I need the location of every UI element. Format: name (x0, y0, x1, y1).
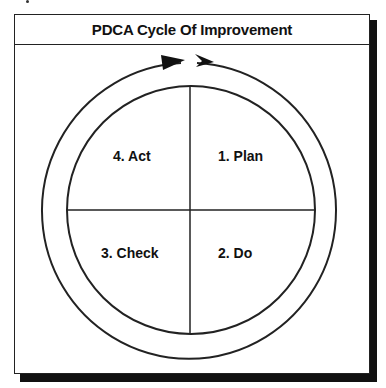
quadrant-check: 3. Check (101, 245, 159, 261)
arrowhead-filled-icon (161, 55, 185, 70)
quadrant-do: 2. Do (218, 245, 252, 261)
pdca-cycle-graphic (0, 0, 386, 388)
quadrant-plan: 1. Plan (218, 148, 263, 164)
outer-cycle-arc (42, 63, 336, 359)
quadrant-act: 4. Act (113, 148, 151, 164)
